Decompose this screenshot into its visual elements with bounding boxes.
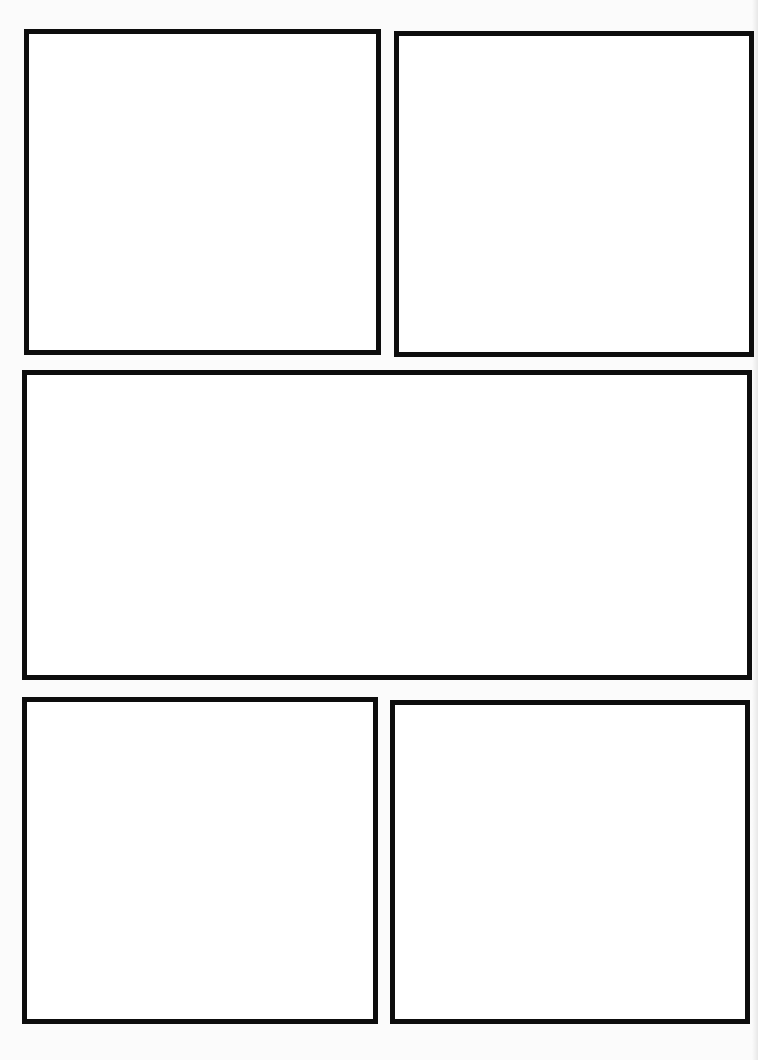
comic-panel-top-right bbox=[394, 31, 754, 357]
comic-panel-bottom-left bbox=[22, 697, 378, 1024]
comic-panel-middle-wide bbox=[22, 370, 752, 680]
comic-panel-top-left bbox=[24, 29, 381, 355]
comic-panel-bottom-right bbox=[390, 700, 750, 1024]
